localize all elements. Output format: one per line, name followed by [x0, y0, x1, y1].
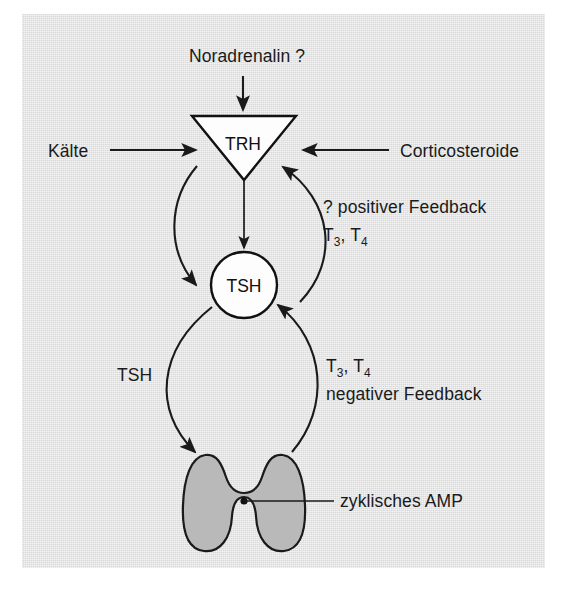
- positive-feedback-hormones-label: T3, T4: [323, 225, 368, 249]
- positive-feedback-label: ? positiver Feedback: [323, 197, 487, 217]
- noradrenalin-label: Noradrenalin ?: [189, 46, 305, 66]
- trh-to-tsh-curve-arrow: [174, 166, 197, 285]
- negative-feedback-hormones-label: T3, T4: [326, 356, 371, 380]
- thyroid-to-tsh-negative-feedback-arrow: [278, 305, 318, 452]
- nf-t-base: T: [326, 356, 337, 376]
- negative-feedback-label: negativer Feedback: [326, 384, 482, 404]
- tsh-pathway-label: TSH: [117, 365, 152, 385]
- cyclic-amp-label: zyklisches AMP: [340, 491, 463, 511]
- pf-t-base: T: [323, 225, 334, 245]
- tsh-to-trh-positive-feedback-arrow: [283, 167, 326, 302]
- nf-t4-sub: 4: [364, 366, 371, 380]
- corticosteroide-label: Corticosteroide: [400, 141, 519, 161]
- tsh-to-thyroid-arrow: [167, 307, 212, 452]
- nf-sep: , T: [344, 356, 365, 376]
- tsh-label: TSH: [227, 276, 262, 296]
- trh-label: TRH: [225, 134, 261, 154]
- pf-t4-sub: 4: [361, 235, 368, 249]
- thyroid-regulation-diagram: Noradrenalin ? TRH Kälte Corticosteroide…: [0, 0, 569, 592]
- kaelte-label: Kälte: [48, 141, 88, 161]
- pf-sep: , T: [341, 225, 362, 245]
